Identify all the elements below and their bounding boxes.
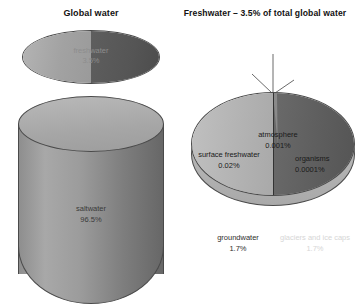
freshwater-value: 3.5% xyxy=(22,56,160,66)
global-water-chart: Global water freshwater 3.5% saltwater 9… xyxy=(0,0,182,302)
groundwater-label-group: groundwater 1.7% xyxy=(205,233,271,254)
freshwater-label: freshwater xyxy=(22,46,160,56)
freshwater-pie: groundwater 1.7% glaciers and ice caps 1… xyxy=(191,92,355,210)
atmosphere-label: atmosphere xyxy=(247,130,309,141)
saltwater-value: 96.5% xyxy=(18,215,164,226)
freshwater-label-group: freshwater 3.5% xyxy=(22,46,160,66)
saltwater-cylinder-top xyxy=(18,96,164,152)
saltwater-cylinder-bottom xyxy=(18,246,164,304)
glaciers-label-group: glaciers and ice caps 1.7% xyxy=(275,233,355,254)
global-water-title: Global water xyxy=(0,8,182,18)
freshwater-chart: Freshwater – 3.5% of total global water … xyxy=(182,0,364,302)
saltwater-cylinder: saltwater 96.5% xyxy=(18,96,164,306)
organisms-value: 0.0001% xyxy=(295,165,357,176)
groundwater-label: groundwater xyxy=(205,233,271,244)
saltwater-label: saltwater xyxy=(18,204,164,215)
surface-freshwater-label-group: surface freshwater 0.02% xyxy=(193,150,265,171)
surface-freshwater-label: surface freshwater xyxy=(193,150,265,161)
atmosphere-label-group: atmosphere 0.001% xyxy=(247,130,309,151)
freshwater-title: Freshwater – 3.5% of total global water xyxy=(174,8,356,18)
surface-freshwater-value: 0.02% xyxy=(193,161,265,172)
organisms-label-group: organisms 0.0001% xyxy=(295,154,357,175)
glaciers-value: 1.7% xyxy=(275,244,355,255)
glaciers-label: glaciers and ice caps xyxy=(275,233,355,244)
freshwater-disc: freshwater 3.5% xyxy=(22,30,160,92)
organisms-label: organisms xyxy=(295,154,357,165)
saltwater-label-group: saltwater 96.5% xyxy=(18,204,164,225)
groundwater-value: 1.7% xyxy=(205,244,271,255)
